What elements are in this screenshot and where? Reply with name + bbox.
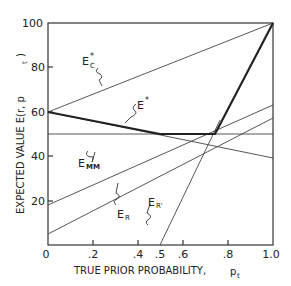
annotation-pointers [86, 68, 150, 225]
x-tick-1-0: 1.0 [262, 248, 280, 261]
x-tick-0-8: .8 [223, 248, 234, 261]
y-tick-60: 60 [31, 106, 45, 119]
label-ec-star-sup: * [90, 52, 94, 61]
label-emm-sub: MM [86, 163, 100, 171]
series-er-upper [48, 105, 273, 205]
y-tick-40: 40 [31, 150, 45, 163]
chart: 100 80 60 40 20 0 .2 .4 .5 .6 .8 1.0 TRU… [0, 0, 291, 286]
x-axis-symbol-sub: t [237, 272, 240, 280]
y-tick-100: 100 [22, 17, 43, 30]
label-er-prime: E [148, 196, 155, 209]
series-er-prime [160, 120, 220, 245]
y-axis-label-end: ) [15, 53, 26, 57]
label-ec-star-sub: C [90, 62, 95, 70]
label-er: E [117, 208, 124, 221]
y-tick-80: 80 [31, 61, 45, 74]
y-axis-label: EXPECTED VALUE E(r, p [15, 96, 26, 214]
y-axis-label-sub: t [21, 61, 29, 64]
y-tick-20: 20 [31, 195, 45, 208]
x-axis-label: TRUE PRIOR PROBABILITY, [73, 265, 206, 276]
label-emm: E [78, 157, 85, 170]
label-e-star-sup: * [145, 96, 149, 105]
label-ec-star: E [82, 55, 89, 68]
label-er-prime-sub: R' [156, 202, 163, 210]
x-axis-symbol: p [230, 266, 236, 277]
label-er-sub: R [125, 214, 130, 222]
x-tick-0-2: .2 [88, 248, 99, 261]
x-tick-0-4: .4 [133, 248, 144, 261]
x-tick-0: 0 [43, 248, 50, 261]
x-tick-0-5: .5 [155, 248, 166, 261]
y-axis-label-group: EXPECTED VALUE E(r, p t ) [15, 53, 29, 214]
x-tick-0-6: .6 [178, 248, 189, 261]
label-e-star: E [137, 99, 144, 112]
series-e-star [48, 23, 273, 134]
